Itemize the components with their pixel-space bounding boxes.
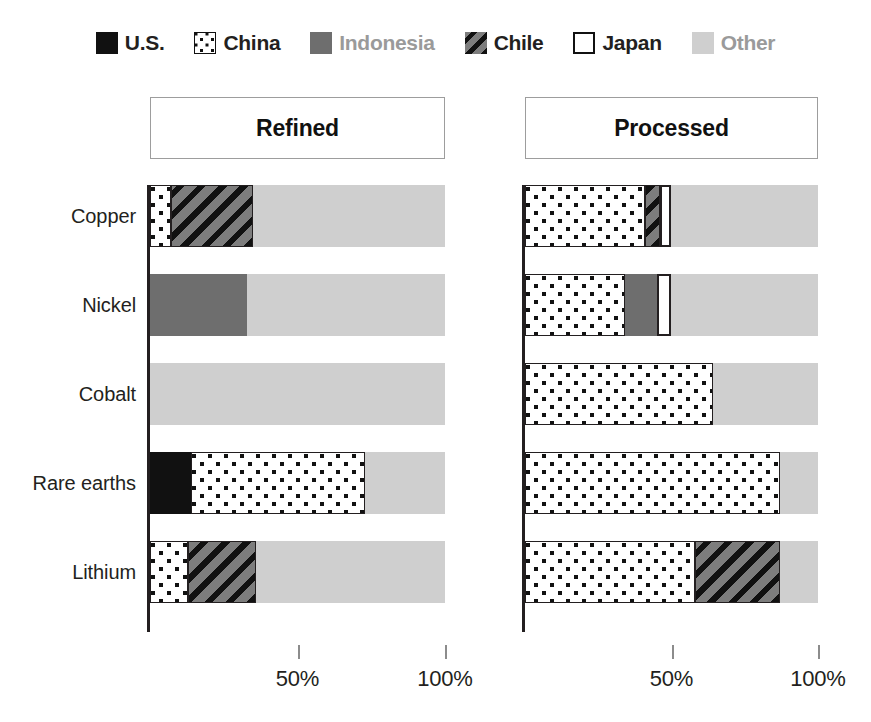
stacked-bar-lithium[interactable] (525, 541, 818, 603)
bar-row (525, 274, 818, 336)
category-label-lithium: Lithium (0, 541, 136, 603)
bar-segment-indonesia[interactable] (625, 274, 657, 336)
bar-row (525, 185, 818, 247)
stacked-bar-rare-earths[interactable] (525, 452, 818, 514)
dotted-box-swatch-icon (194, 32, 216, 54)
bar-segment-japan[interactable] (657, 274, 672, 336)
bar-segment-china[interactable] (525, 452, 780, 514)
stacked-bar-nickel[interactable] (525, 274, 818, 336)
bar-segment-other[interactable] (671, 185, 818, 247)
legend-label-other: Other (721, 32, 776, 54)
bar-segment-japan[interactable] (660, 185, 672, 247)
stacked-bar-rare-earths[interactable] (150, 452, 445, 514)
bar-segment-china[interactable] (525, 541, 695, 603)
stacked-bar-lithium[interactable] (150, 541, 445, 603)
panel-processed-plot (525, 185, 818, 632)
stacked-bar-cobalt[interactable] (150, 363, 445, 425)
bar-segment-us[interactable] (150, 452, 191, 514)
bar-row (525, 541, 818, 603)
stacked-bar-cobalt[interactable] (525, 363, 818, 425)
bar-segment-indonesia[interactable] (150, 274, 247, 336)
bar-segment-china[interactable] (525, 363, 713, 425)
axis-tick (298, 645, 300, 659)
bar-segment-china[interactable] (150, 185, 171, 247)
bar-segment-other[interactable] (256, 541, 445, 603)
legend-label-indonesia: Indonesia (339, 32, 434, 54)
bar-segment-other[interactable] (253, 185, 445, 247)
bar-segment-chile[interactable] (645, 185, 660, 247)
bar-row (150, 185, 445, 247)
panel-processed-title: Processed (614, 115, 729, 142)
stacked-bar-copper[interactable] (150, 185, 445, 247)
category-axis-labels: CopperNickelCobaltRare earthsLithium (0, 185, 136, 632)
bar-segment-other[interactable] (780, 541, 818, 603)
panel-refined-plot (150, 185, 445, 632)
axis-tick (818, 645, 820, 659)
outlined-white-swatch-icon (573, 32, 595, 54)
panel-refined-header: Refined (150, 97, 445, 159)
bar-segment-china[interactable] (525, 274, 625, 336)
panel-processed-header: Processed (525, 97, 818, 159)
bar-row (150, 452, 445, 514)
legend-label-chile: Chile (494, 32, 544, 54)
bar-segment-china[interactable] (150, 541, 188, 603)
legend-item-other[interactable]: Other (692, 32, 776, 54)
chart-legend: U.S.ChinaIndonesiaChileJapanOther (0, 26, 871, 60)
legend-item-chile[interactable]: Chile (465, 32, 544, 54)
legend-label-japan: Japan (602, 32, 661, 54)
light-gray-swatch-icon (692, 32, 714, 54)
category-label-cobalt: Cobalt (0, 363, 136, 425)
legend-item-us[interactable]: U.S. (96, 32, 165, 54)
bar-segment-china[interactable] (191, 452, 365, 514)
solid-black-swatch-icon (96, 32, 118, 54)
bar-row (525, 452, 818, 514)
axis-tick-label: 50% (276, 666, 319, 692)
bar-row (150, 274, 445, 336)
bar-segment-other[interactable] (780, 452, 818, 514)
bar-segment-other[interactable] (247, 274, 445, 336)
bar-segment-chile[interactable] (695, 541, 780, 603)
bar-segment-other[interactable] (671, 274, 818, 336)
legend-item-japan[interactable]: Japan (573, 32, 661, 54)
category-label-rare-earths: Rare earths (0, 452, 136, 514)
solid-gray-swatch-icon (310, 32, 332, 54)
bar-segment-chile[interactable] (188, 541, 256, 603)
axis-tick (672, 645, 674, 659)
bar-segment-other[interactable] (713, 363, 818, 425)
legend-label-china: China (223, 32, 280, 54)
legend-item-china[interactable]: China (194, 32, 280, 54)
axis-tick-label: 100% (790, 666, 845, 692)
bar-segment-other[interactable] (150, 363, 445, 425)
bar-segment-other[interactable] (365, 452, 445, 514)
stacked-bar-copper[interactable] (525, 185, 818, 247)
bar-row (150, 363, 445, 425)
bar-segment-chile[interactable] (171, 185, 254, 247)
axis-tick-label: 100% (417, 666, 472, 692)
panel-refined-title: Refined (256, 115, 339, 142)
axis-tick (445, 645, 447, 659)
hatched-box-swatch-icon (465, 32, 487, 54)
bar-segment-china[interactable] (525, 185, 645, 247)
legend-item-indonesia[interactable]: Indonesia (310, 32, 434, 54)
bar-row (525, 363, 818, 425)
stacked-bar-nickel[interactable] (150, 274, 445, 336)
category-label-nickel: Nickel (0, 274, 136, 336)
category-label-copper: Copper (0, 185, 136, 247)
legend-label-us: U.S. (125, 32, 165, 54)
axis-tick-label: 50% (650, 666, 693, 692)
chart-figure: U.S.ChinaIndonesiaChileJapanOther Copper… (0, 0, 871, 722)
bar-row (150, 541, 445, 603)
